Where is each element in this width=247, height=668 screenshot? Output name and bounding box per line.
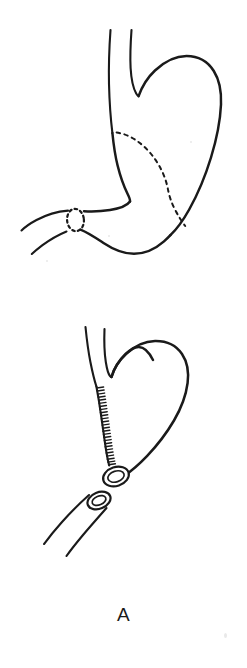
esophagus-right-wall-upper: [130, 30, 138, 96]
scan-speck: [224, 633, 227, 638]
scan-speck: [46, 260, 48, 262]
esophagus-right-wall-lower: [104, 329, 111, 377]
greater-curvature-upper: [139, 56, 222, 235]
esophagus-left-wall-lower: [86, 327, 97, 387]
surgical-illustration: [0, 0, 247, 668]
antrum-inferior-wall-upper: [81, 230, 171, 254]
dashed-resection-line: [117, 133, 186, 227]
duodenum-upper-wall: [22, 211, 69, 231]
panel-label-a: A: [0, 605, 247, 624]
antrum-superior-wall-upper: [84, 202, 130, 212]
dashed-pyloric-transection-ring: [66, 208, 85, 232]
duodenal-stump-lower-wall: [67, 508, 107, 556]
lesser-curvature-upper: [112, 133, 130, 202]
scan-speck: [108, 235, 110, 237]
gastric-remnant-dome: [112, 341, 189, 476]
lower-panel-group: [44, 327, 188, 556]
staple-suture-line: [96, 387, 109, 466]
esophagus-left-wall-upper: [109, 30, 113, 133]
figure-canvas: A: [0, 0, 247, 668]
duodenum-lower-wall: [32, 232, 67, 255]
scan-speck: [190, 141, 192, 143]
